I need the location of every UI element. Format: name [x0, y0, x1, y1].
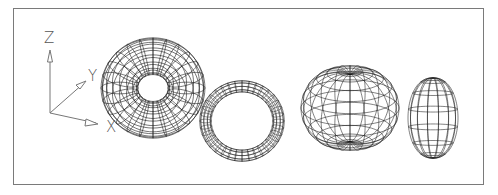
y-axis-label: Y [88, 69, 97, 84]
diagram-canvas [0, 0, 498, 195]
oblate-spheroid-wireframe [301, 65, 399, 150]
ucs-axis-icon [48, 50, 99, 126]
torus-thick-wireframe [101, 38, 205, 138]
prolate-spheroid-wireframe [408, 78, 458, 158]
torus-thin-wireframe [200, 81, 285, 162]
x-axis-label: X [106, 120, 116, 135]
z-axis-label: Z [44, 31, 54, 46]
